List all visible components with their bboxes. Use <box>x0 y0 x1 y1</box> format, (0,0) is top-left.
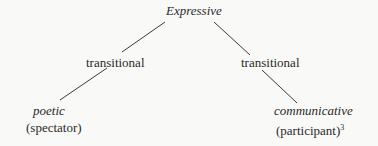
leaf-communicative-role: (participant) <box>276 123 340 138</box>
right-transitional-node: transitional <box>241 55 300 70</box>
root-node-expressive: Expressive <box>166 3 222 18</box>
leaf-communicative: communicative <box>274 103 353 118</box>
leaf-poetic: poetic <box>33 103 65 118</box>
footnote-marker: 3 <box>340 123 344 132</box>
leaf-communicative-role-wrap: (participant)3 <box>276 120 344 138</box>
edge-right-transitional-communicative <box>262 70 297 103</box>
edge-root-left-transitional <box>122 22 165 52</box>
left-transitional-node: transitional <box>86 55 145 70</box>
edge-root-right-transitional <box>214 22 250 55</box>
edge-left-transitional-poetic <box>60 68 107 100</box>
leaf-poetic-role: (spectator) <box>26 120 82 135</box>
